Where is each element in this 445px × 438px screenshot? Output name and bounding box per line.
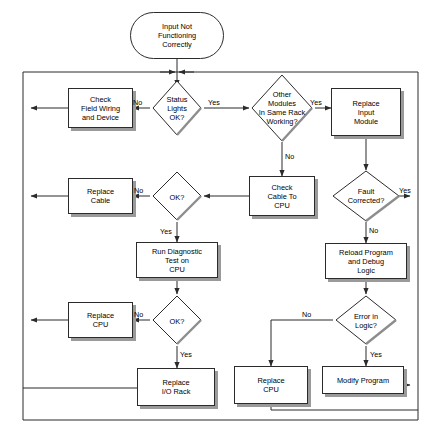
node-reload-program-line2: and Debug	[339, 257, 393, 266]
node-replace-input-module-line2: Input	[352, 108, 379, 117]
node-run-diagnostic-line2: Test on	[152, 256, 202, 265]
edge-cpu-bottom-return	[271, 404, 418, 410]
node-start-line1: Input Not	[158, 22, 196, 31]
node-other-modules-line3: In Same Rack	[259, 108, 305, 117]
node-replace-io-rack-line2: I/O Rack	[162, 387, 191, 396]
node-status-lights-line2: Lights	[167, 104, 188, 113]
node-replace-io-rack[interactable]: Replace I/O Rack	[137, 368, 215, 406]
node-check-field-wiring-line1: Check	[81, 95, 120, 104]
node-check-field-wiring-line2: Field Wiring	[81, 104, 120, 113]
edge-label-ok2-yes: Yes	[180, 350, 192, 359]
node-error-in-logic[interactable]: Error in Logic?	[333, 294, 399, 348]
node-status-lights-line3: OK?	[167, 113, 188, 122]
node-replace-cable-line2: Cable	[87, 196, 114, 205]
node-status-lights-line1: Status	[167, 95, 188, 104]
node-start-line3: Correctly	[158, 40, 196, 49]
edge-label-fault-yes: Yes	[399, 186, 411, 195]
node-modify-program-line1: Modify Program	[337, 376, 389, 385]
node-check-field-wiring-line3: and Device	[81, 113, 120, 122]
edge-label-status-yes: Yes	[208, 98, 220, 107]
node-check-cable-cpu-line2: Cable To	[267, 192, 296, 201]
node-error-in-logic-line1: Error in	[354, 312, 378, 321]
node-run-diagnostic-line3: CPU	[152, 265, 202, 274]
node-replace-cpu-left[interactable]: Replace CPU	[68, 302, 133, 338]
node-check-field-wiring[interactable]: Check Field Wiring and Device	[68, 88, 133, 128]
node-fault-corrected-line2: Corrected?	[348, 196, 385, 205]
node-replace-input-module[interactable]: Replace Input Module	[331, 88, 401, 136]
node-modify-program[interactable]: Modify Program	[322, 366, 404, 394]
node-run-diagnostic[interactable]: Run Diagnostic Test on CPU	[136, 242, 218, 278]
node-replace-cpu-left-line2: CPU	[87, 320, 114, 329]
edge-label-modules-no: No	[285, 152, 294, 161]
edge-label-ok1-no: No	[134, 186, 143, 195]
node-reload-program[interactable]: Reload Program and Debug Logic	[325, 243, 407, 279]
node-other-modules-line4: Working?	[259, 117, 305, 126]
node-other-modules[interactable]: Other Modules In Same Rack Working?	[249, 72, 315, 144]
node-error-in-logic-line2: Logic?	[354, 321, 378, 330]
edge-label-ok1-yes: Yes	[160, 227, 172, 236]
node-run-diagnostic-line1: Run Diagnostic	[152, 247, 202, 256]
node-ok-1[interactable]: OK?	[150, 170, 204, 224]
node-replace-cable-line1: Replace	[87, 187, 114, 196]
edge-label-logic-no: No	[302, 310, 311, 319]
node-ok-1-line1: OK?	[170, 193, 185, 202]
node-fault-corrected[interactable]: Fault Corrected?	[306, 169, 426, 223]
node-reload-program-line3: Logic	[339, 266, 393, 275]
node-replace-input-module-line3: Module	[352, 117, 379, 126]
edge-label-modules-yes: Yes	[310, 98, 322, 107]
node-check-cable-cpu-line3: CPU	[267, 201, 296, 210]
node-start[interactable]: Input Not Functioning Correctly	[130, 12, 224, 59]
edge-logic-no	[271, 320, 333, 366]
node-replace-cpu-bottom-line1: Replace	[257, 376, 284, 385]
node-start-line2: Functioning	[158, 31, 196, 40]
node-replace-cpu-bottom[interactable]: Replace CPU	[234, 366, 308, 404]
edge-label-logic-yes: Yes	[370, 350, 382, 359]
node-replace-cable[interactable]: Replace Cable	[68, 178, 133, 214]
node-status-lights[interactable]: Status Lights OK?	[150, 78, 204, 138]
node-replace-input-module-line1: Replace	[352, 99, 379, 108]
node-replace-io-rack-line1: Replace	[162, 378, 191, 387]
node-other-modules-line2: Modules	[259, 99, 305, 108]
node-reload-program-line1: Reload Program	[339, 248, 393, 257]
node-replace-cpu-left-line1: Replace	[87, 311, 114, 320]
node-ok-2[interactable]: OK?	[150, 294, 204, 348]
flowchart-canvas: Input Not Functioning Correctly Check Fi…	[0, 0, 445, 438]
node-replace-cpu-bottom-line2: CPU	[257, 385, 284, 394]
edge-label-status-no: No	[133, 98, 142, 107]
edge-label-fault-no: No	[369, 226, 378, 235]
node-check-cable-cpu-line1: Check	[267, 183, 296, 192]
node-fault-corrected-line1: Fault	[348, 187, 385, 196]
node-other-modules-line1: Other	[259, 90, 305, 99]
edge-label-ok2-no: No	[134, 310, 143, 319]
node-ok-2-line1: OK?	[170, 317, 185, 326]
